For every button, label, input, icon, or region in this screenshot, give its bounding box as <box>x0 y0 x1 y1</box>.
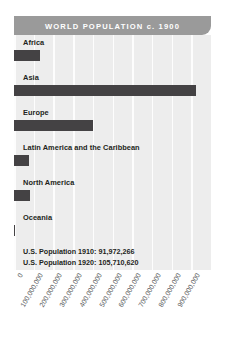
bar-label: Latin America and the Caribbean <box>23 143 140 152</box>
bar <box>14 155 29 166</box>
annotation-block: U.S. Population 1910: 91,972,266 U.S. Po… <box>23 247 138 268</box>
bar <box>14 225 15 236</box>
bar <box>14 50 40 61</box>
bar-label: Europe <box>23 108 49 117</box>
bar-label: Oceania <box>23 213 52 222</box>
annotation-line: U.S. Population 1920: 105,710,620 <box>23 258 138 269</box>
bar <box>14 85 196 96</box>
bar <box>14 190 30 201</box>
bar-label: Asia <box>23 73 39 82</box>
bar-label: Africa <box>23 38 44 47</box>
gridline <box>191 35 193 270</box>
chart-plot-area: AfricaAsiaEuropeLatin America and the Ca… <box>14 35 211 270</box>
gridline <box>53 35 55 270</box>
gridline <box>113 35 115 270</box>
gridline <box>34 35 36 270</box>
annotation-line: U.S. Population 1910: 91,972,266 <box>23 247 138 258</box>
chart-title: WORLD POPULATION c. 1900 <box>14 21 211 30</box>
bar <box>14 120 93 131</box>
gridline <box>93 35 95 270</box>
tick-label: 0 <box>16 272 24 279</box>
bar-label: North America <box>23 178 74 187</box>
chart-title-bar: WORLD POPULATION c. 1900 <box>14 16 211 35</box>
x-axis-tick-labels: 0100,000,000200,000,000300,000,000400,00… <box>14 272 211 350</box>
gridline <box>73 35 75 270</box>
gridline <box>172 35 174 270</box>
gridline <box>152 35 154 270</box>
gridline <box>132 35 134 270</box>
